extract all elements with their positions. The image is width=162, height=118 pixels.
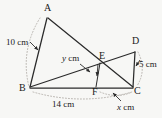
vertex-label-d: D <box>132 36 139 46</box>
vertex-label-c: C <box>134 86 141 96</box>
segment-ab <box>30 18 47 87</box>
vertex-label-e: E <box>99 51 105 61</box>
segment-dc <box>133 52 135 87</box>
measure-label-bc: 14 cm <box>52 100 74 109</box>
guide-arc-fc <box>100 92 132 96</box>
measure-unit-y: cm <box>66 53 79 63</box>
measure-unit-x: cm <box>121 102 134 112</box>
guide-arc-dc <box>137 52 142 86</box>
vertex-label-f: F <box>92 87 98 97</box>
measure-label-ef: y cm <box>62 54 79 63</box>
vertex-label-a: A <box>44 3 51 13</box>
pointer-fc <box>113 93 121 101</box>
measure-label-fc: x cm <box>117 103 134 112</box>
measure-label-dc: 5 cm <box>139 60 157 69</box>
geometry-figure: A B C D E F 10 cm 5 cm 14 cm y cm x cm <box>0 0 162 118</box>
segment-bd <box>30 52 135 87</box>
pointer-ab <box>30 42 38 50</box>
vertex-label-b: B <box>19 83 26 93</box>
measure-label-ab: 10 cm <box>6 38 28 47</box>
figure-canvas <box>0 0 162 118</box>
